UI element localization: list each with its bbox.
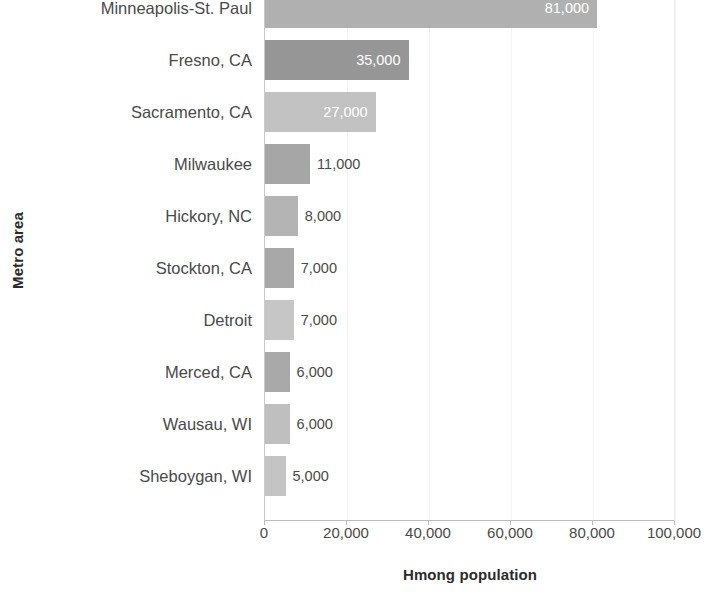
x-tick-mark xyxy=(428,521,429,525)
bar-value-label: 11,000 xyxy=(317,144,360,184)
bar[interactable] xyxy=(265,456,286,496)
bar[interactable] xyxy=(265,196,298,236)
category-label: Sacramento, CA xyxy=(131,92,252,132)
bar-value-label: 7,000 xyxy=(301,248,337,288)
bar-row[interactable]: 11,000 xyxy=(265,144,675,184)
bar-row[interactable]: 8,000 xyxy=(265,196,675,236)
category-label: Stockton, CA xyxy=(156,248,252,288)
gridline xyxy=(675,0,676,520)
bar-row[interactable]: 7,000 xyxy=(265,300,675,340)
bar-value-label: 8,000 xyxy=(305,196,341,236)
bar-value-label: 35,000 xyxy=(265,40,409,80)
x-tick-label: 20,000 xyxy=(323,524,369,541)
bar-value-label: 27,000 xyxy=(265,92,376,132)
bar[interactable] xyxy=(265,352,290,392)
bar-value-label: 5,000 xyxy=(293,456,329,496)
bar[interactable] xyxy=(265,248,294,288)
category-label: Fresno, CA xyxy=(169,40,252,80)
bar-row[interactable]: 5,000 xyxy=(265,456,675,496)
bar-value-label: 81,000 xyxy=(265,0,597,28)
x-tick-mark xyxy=(674,521,675,525)
bar[interactable] xyxy=(265,300,294,340)
bar[interactable] xyxy=(265,144,310,184)
x-tick-label: 0 xyxy=(260,524,268,541)
category-label: Minneapolis-St. Paul xyxy=(101,0,252,28)
bar-row[interactable]: 27,000 xyxy=(265,92,675,132)
bar-row[interactable]: 6,000 xyxy=(265,352,675,392)
y-axis-title: Metro area xyxy=(2,160,32,340)
category-label: Sheboygan, WI xyxy=(139,456,252,496)
category-label: Wausau, WI xyxy=(163,404,252,444)
category-label: Detroit xyxy=(203,300,252,340)
category-label: Hickory, NC xyxy=(165,196,252,236)
hmong-population-bar-chart: Metro area Minneapolis-St. PaulFresno, C… xyxy=(0,0,704,600)
x-tick-mark xyxy=(592,521,593,525)
bar-value-label: 7,000 xyxy=(301,300,337,340)
category-label: Merced, CA xyxy=(165,352,252,392)
bars-layer: 81,00035,00027,00011,0008,0007,0007,0006… xyxy=(265,0,675,509)
x-tick-label: 40,000 xyxy=(405,524,451,541)
bar-value-label: 6,000 xyxy=(297,404,333,444)
x-tick-label: 60,000 xyxy=(487,524,533,541)
bar-row[interactable]: 6,000 xyxy=(265,404,675,444)
x-tick-label: 80,000 xyxy=(569,524,615,541)
x-axis-tick-labels: 020,00040,00060,00080,000100,000 xyxy=(264,524,675,550)
bar[interactable] xyxy=(265,404,290,444)
bar-row[interactable]: 7,000 xyxy=(265,248,675,288)
bar-row[interactable]: 81,000 xyxy=(265,0,675,28)
category-label: Milwaukee xyxy=(174,144,252,184)
x-tick-label: 100,000 xyxy=(647,524,701,541)
y-axis-title-text: Metro area xyxy=(9,212,26,289)
x-tick-mark xyxy=(510,521,511,525)
x-axis-title: Hmong population xyxy=(264,566,676,583)
bar-row[interactable]: 35,000 xyxy=(265,40,675,80)
x-tick-mark xyxy=(346,521,347,525)
x-tick-mark xyxy=(264,521,265,525)
y-axis-tick-labels: Minneapolis-St. PaulFresno, CASacramento… xyxy=(30,0,258,509)
bar-value-label: 6,000 xyxy=(297,352,333,392)
